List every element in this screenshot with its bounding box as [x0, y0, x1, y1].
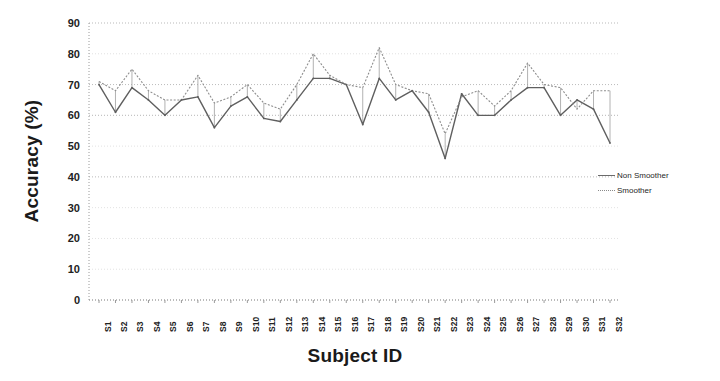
- y-tick-label: 60: [46, 110, 80, 120]
- x-tick-label: S5: [168, 298, 178, 332]
- x-tick-label: S15: [333, 298, 343, 332]
- y-tick-label: 80: [46, 49, 80, 59]
- x-tick-label: S6: [185, 298, 195, 332]
- x-tick-label: S21: [432, 298, 442, 332]
- x-tick-label: S24: [482, 298, 492, 332]
- solid-line-swatch-icon: [598, 175, 615, 176]
- x-tick-label: S3: [135, 298, 145, 332]
- x-tick-label: S7: [201, 298, 211, 332]
- x-tick-label: S17: [366, 298, 376, 332]
- x-tick-label: S4: [152, 298, 162, 332]
- legend-label-non-smoother: Non Smoother: [617, 171, 669, 180]
- y-tick-label: 30: [46, 203, 80, 213]
- chart-legend: Non Smoother Smoother: [598, 168, 669, 198]
- y-tick-label: 20: [46, 233, 80, 243]
- x-tick-label: S12: [284, 298, 294, 332]
- dotted-line-swatch-icon: [598, 190, 615, 191]
- x-tick-label: S16: [350, 298, 360, 332]
- x-tick-label: S22: [449, 298, 459, 332]
- x-tick-label: S26: [515, 298, 525, 332]
- x-tick-label: S9: [234, 298, 244, 332]
- x-tick-label: S29: [564, 298, 574, 332]
- y-tick-label: 90: [46, 18, 80, 28]
- x-tick-label: S31: [597, 298, 607, 332]
- legend-item-non-smoother: Non Smoother: [598, 168, 669, 183]
- x-tick-label: S28: [548, 298, 558, 332]
- x-tick-label: S13: [300, 298, 310, 332]
- x-tick-label: S18: [383, 298, 393, 332]
- x-tick-label: S11: [267, 298, 277, 332]
- legend-item-smoother: Smoother: [598, 183, 669, 198]
- x-tick-label: S10: [251, 298, 261, 332]
- x-tick-label: S30: [581, 298, 591, 332]
- x-tick-label: S8: [218, 298, 228, 332]
- x-tick-label: S32: [614, 298, 624, 332]
- legend-label-smoother: Smoother: [617, 186, 652, 195]
- y-tick-label: 10: [46, 264, 80, 274]
- x-tick-label: S19: [399, 298, 409, 332]
- y-tick-label: 0: [46, 295, 80, 305]
- x-tick-label: S14: [317, 298, 327, 332]
- y-tick-label: 40: [46, 172, 80, 182]
- y-tick-label: 50: [46, 141, 80, 151]
- x-tick-label: S23: [465, 298, 475, 332]
- x-tick-label: S25: [498, 298, 508, 332]
- y-tick-label: 70: [46, 80, 80, 90]
- x-tick-label: S2: [119, 298, 129, 332]
- x-tick-label: S27: [531, 298, 541, 332]
- accuracy-line-chart: Accuracy (%) Subject ID 9080706050403020…: [0, 0, 720, 381]
- x-tick-label: S1: [103, 298, 113, 332]
- x-tick-label: S20: [416, 298, 426, 332]
